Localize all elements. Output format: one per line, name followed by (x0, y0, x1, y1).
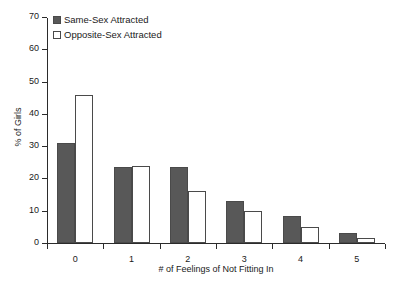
bar (301, 227, 319, 243)
y-axis-tick: 40 (42, 114, 47, 115)
x-axis-category-label: 0 (60, 254, 90, 264)
legend-item-label: Opposite-Sex Attracted (64, 29, 162, 40)
y-axis-tick: 50 (42, 82, 47, 83)
y-axis-tick-label: 10 (29, 205, 39, 215)
y-axis-tick: 70 (42, 17, 47, 18)
chart-legend: Same-Sex AttractedOpposite-Sex Attracted (53, 12, 162, 42)
y-axis-tick: 30 (42, 146, 47, 147)
x-axis-title: # of Feelings of Not Fitting In (47, 264, 385, 274)
bar (170, 167, 188, 243)
legend-swatch-filled-square-icon (53, 16, 61, 24)
legend-item: Same-Sex Attracted (53, 12, 162, 27)
bar (132, 166, 150, 243)
plot-area: 010203040506070 012345 (47, 18, 385, 244)
x-axis-tick (103, 244, 104, 249)
x-axis-tick (216, 244, 217, 249)
bar-chart: % of Girls 010203040506070 012345 Same-S… (0, 0, 409, 281)
bar (339, 233, 357, 243)
x-axis-tick (329, 244, 330, 249)
y-axis-tick-label: 40 (29, 108, 39, 118)
bar (244, 211, 262, 243)
bar (226, 201, 244, 243)
y-axis-tick: 60 (42, 49, 47, 50)
x-axis-category-label: 5 (342, 254, 372, 264)
y-axis-tick: 20 (42, 178, 47, 179)
bar (357, 238, 375, 243)
y-axis-tick-label: 30 (29, 140, 39, 150)
x-axis-tick (385, 244, 386, 249)
y-axis-title: % of Girls (13, 87, 23, 167)
x-axis-tick (272, 244, 273, 249)
y-axis-tick-label: 50 (29, 76, 39, 86)
bar (188, 191, 206, 243)
legend-item: Opposite-Sex Attracted (53, 27, 162, 42)
y-axis-tick-label: 20 (29, 172, 39, 182)
y-axis-tick-label: 60 (29, 43, 39, 53)
y-axis-tick-label: 0 (34, 237, 39, 247)
x-axis-tick (160, 244, 161, 249)
x-axis-category-label: 1 (117, 254, 147, 264)
x-axis-category-label: 3 (229, 254, 259, 264)
y-axis-tick: 10 (42, 211, 47, 212)
y-axis-line (47, 18, 48, 244)
bar (75, 95, 93, 244)
legend-item-label: Same-Sex Attracted (64, 14, 148, 25)
bar (114, 167, 132, 243)
x-axis-category-label: 2 (173, 254, 203, 264)
bar (57, 143, 75, 243)
bar (283, 216, 301, 243)
x-axis-category-label: 4 (286, 254, 316, 264)
legend-swatch-open-square-icon (53, 31, 61, 39)
y-axis-tick-label: 70 (29, 11, 39, 21)
x-axis-tick (47, 244, 48, 249)
